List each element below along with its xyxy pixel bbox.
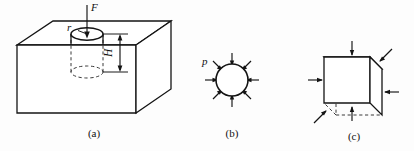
cube-front-face xyxy=(324,57,370,103)
label-radius: r xyxy=(67,21,72,33)
caption-panel-c: (c) xyxy=(348,130,361,143)
cube-arrow-bottom-head xyxy=(350,106,354,112)
cube-arrow-left-head xyxy=(317,78,323,82)
panel-c-cube-pressure: (c) xyxy=(308,41,399,143)
label-depth: H xyxy=(102,48,114,58)
pressure-circle xyxy=(216,64,248,96)
cube-arrow-right-head xyxy=(384,90,390,94)
panel-a-block-with-hole: r F H (a) xyxy=(17,1,171,140)
cube-hidden-edge-to-front-bottom-left xyxy=(324,103,336,115)
cube-arrow-top-head xyxy=(350,50,354,56)
label-force: F xyxy=(90,1,98,13)
caption-panel-b: (b) xyxy=(226,127,239,140)
figure-container: r F H (a) xyxy=(0,0,414,151)
panel-b-circle-pressure: p (b) xyxy=(201,53,259,140)
block-front-face xyxy=(17,45,136,113)
label-pressure: p xyxy=(201,55,208,67)
technical-figure: r F H (a) xyxy=(0,0,414,151)
cube-right-face xyxy=(370,57,382,115)
caption-panel-a: (a) xyxy=(88,127,101,140)
